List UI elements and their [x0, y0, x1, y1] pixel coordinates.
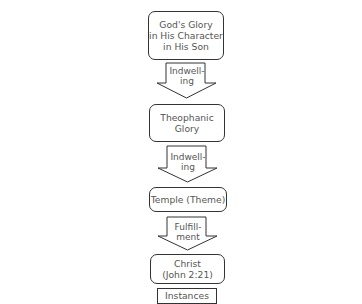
arrow-indwelling-1: Indwell- ing [156, 62, 218, 100]
node-instances: Instances [157, 288, 217, 304]
node-christ: Christ (John 2:21) [150, 254, 225, 284]
node-theophanic-glory: Theophanic Glory [149, 104, 225, 142]
arrow-label: Fulfill- ment [157, 222, 219, 242]
arrow-label: Indwell- ing [157, 152, 219, 172]
arrow-indwelling-2: Indwell- ing [157, 145, 219, 183]
arrow-fulfillment: Fulfill- ment [157, 216, 219, 252]
node-gods-glory: God's Glory in His Character in His Son [148, 11, 224, 60]
arrow-label: Indwell- ing [156, 66, 218, 86]
node-temple-theme: Temple (Theme) [149, 187, 227, 212]
